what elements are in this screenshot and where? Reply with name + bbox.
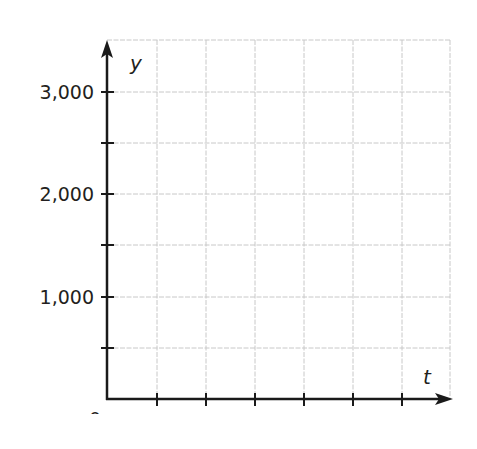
bottom-crop-mask (0, 414, 477, 449)
y-tick-label-3000: 3,000 (40, 81, 94, 103)
grid-lines (107, 40, 450, 399)
y-tick-label-2000: 2,000 (40, 183, 94, 205)
y-axis-label: y (129, 51, 143, 75)
x-axis-label: t (423, 365, 432, 389)
empty-coordinate-grid: 3,000 2,000 1,000 0 y t (0, 0, 477, 449)
y-tick-label-1000: 1,000 (40, 286, 94, 308)
